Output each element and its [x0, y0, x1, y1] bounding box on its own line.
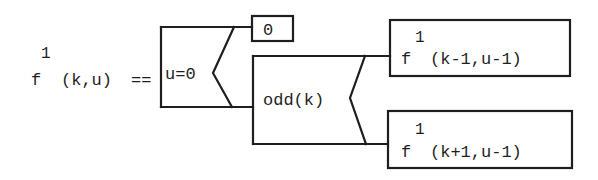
definition-function-name: f — [31, 71, 41, 90]
inner-condition-chevron-icon — [350, 56, 366, 144]
recursive-call-even-arguments: (k+1,u-1) — [430, 143, 522, 162]
definition-superscript: 1 — [41, 45, 51, 63]
conditional-diagram: 1 f (k,u) == u=0 0 odd(k) 1 f (k-1,u-1) — [0, 0, 598, 180]
recursive-call-even-superscript: 1 — [415, 121, 425, 139]
recursive-call-odd-arguments: (k-1,u-1) — [430, 50, 522, 69]
inner-condition-block: odd(k) — [253, 56, 390, 144]
zero-result-label: 0 — [263, 21, 273, 40]
definition-arguments: (k,u) — [61, 71, 112, 90]
inner-condition-label: odd(k) — [263, 91, 324, 110]
recursive-call-even-function-name: f — [401, 143, 411, 162]
inner-true-branch-box: 1 f (k-1,u-1) — [390, 20, 570, 76]
definition-lhs: 1 f (k,u) == — [31, 45, 151, 90]
recursive-call-odd-function-name: f — [401, 50, 411, 69]
recursive-call-odd-superscript: 1 — [415, 29, 425, 47]
outer-condition-block: u=0 — [161, 27, 253, 107]
outer-condition-chevron-icon — [213, 27, 234, 107]
definition-operator: == — [131, 71, 151, 90]
inner-false-branch-box: 1 f (k+1,u-1) — [388, 111, 572, 168]
outer-true-branch-box: 0 — [252, 16, 293, 41]
outer-condition-label: u=0 — [165, 65, 196, 84]
